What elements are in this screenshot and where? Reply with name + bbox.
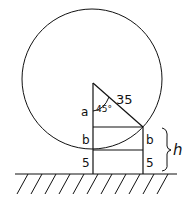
- h-label: h: [173, 141, 183, 159]
- angle-label: 45°: [96, 104, 112, 114]
- right-b-label: b: [146, 133, 154, 147]
- left-5-label: 5: [82, 156, 90, 170]
- wheel-step-diagram: 35 45° a b b 5 5 h: [0, 0, 194, 203]
- ground-hatching: [17, 174, 168, 194]
- wheel-circle: [22, 9, 162, 149]
- left-b-label: b: [82, 133, 90, 147]
- a-label: a: [81, 105, 88, 119]
- right-5-label: 5: [146, 156, 154, 170]
- height-brace: [162, 128, 171, 171]
- hypotenuse-label: 35: [116, 92, 133, 107]
